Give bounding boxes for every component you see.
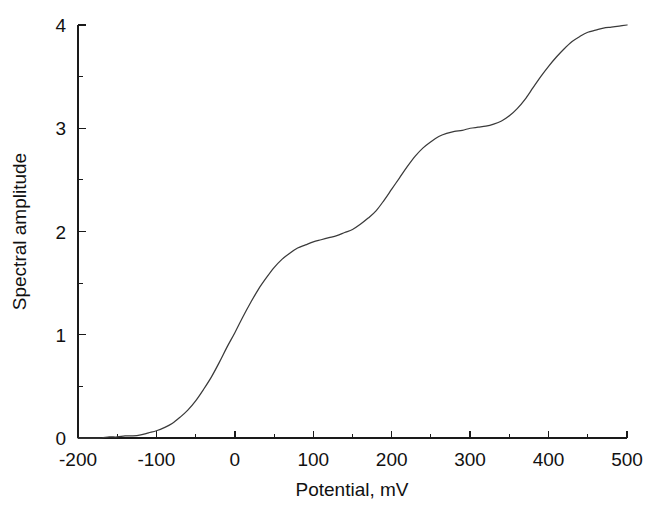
- x-tick-label-100: 100: [297, 449, 329, 470]
- y-tick-label-2: 2: [55, 222, 66, 243]
- x-tick-label-500: 500: [611, 449, 643, 470]
- x-tick-label-200: 200: [376, 449, 408, 470]
- x-tick-label-minus100: -100: [137, 449, 175, 470]
- x-axis-minor-ticks: [117, 434, 588, 439]
- chart-figure: 0 1 2 3 4 -200 -100 0 100 200 300 400 50…: [0, 0, 653, 515]
- y-tick-label-0: 0: [55, 428, 66, 449]
- data-series-line: [78, 25, 627, 438]
- x-tick-label-400: 400: [533, 449, 565, 470]
- y-tick-label-3: 3: [55, 118, 66, 139]
- y-axis-major-ticks: [78, 25, 86, 438]
- x-tick-label-0: 0: [230, 449, 241, 470]
- x-axis-title: Potential, mV: [296, 479, 409, 500]
- x-tick-label-300: 300: [454, 449, 486, 470]
- spectral-amplitude-line-chart: 0 1 2 3 4 -200 -100 0 100 200 300 400 50…: [0, 0, 653, 515]
- x-tick-label-minus200: -200: [59, 449, 97, 470]
- y-axis-title: Spectral amplitude: [9, 153, 30, 310]
- y-tick-label-4: 4: [55, 15, 66, 36]
- y-tick-label-1: 1: [55, 325, 66, 346]
